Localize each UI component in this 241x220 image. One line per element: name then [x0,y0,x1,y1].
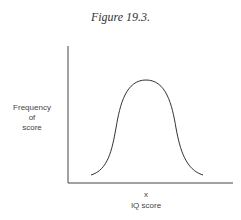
y-label-line2: of [2,113,62,123]
x-axis-label: IQ score [116,201,176,210]
bell-curve [91,80,203,175]
y-axis-label: Frequency of score [2,103,62,133]
y-label-line1: Frequency [2,103,62,113]
y-label-line3: score [2,123,62,133]
x-mean-marker: x [140,190,152,199]
